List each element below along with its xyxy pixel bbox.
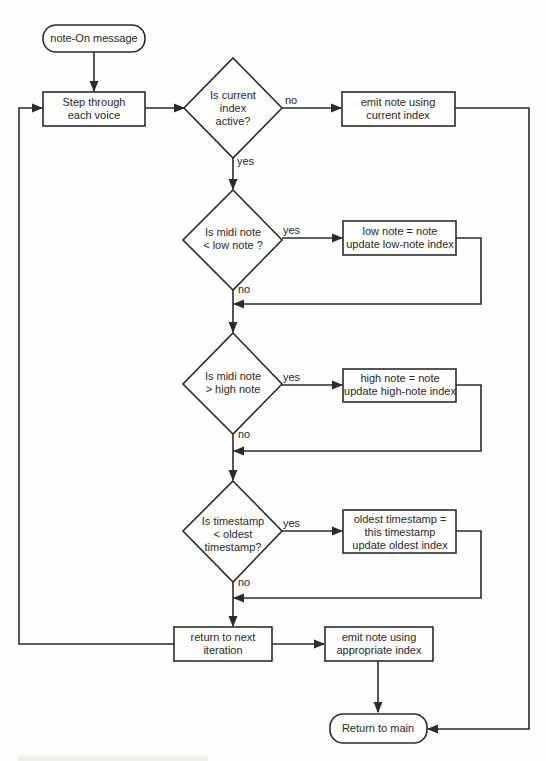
decision-high: Is midi note > high note [183,333,282,434]
node-set-high-text-2: update high-note index [344,385,456,397]
node-set-oldest-text-1: oldest timestamp = [354,513,447,525]
decision-active-text-3: active? [216,115,251,127]
node-start-text: note-On message [50,32,137,44]
node-emit-current: emit note using current index [342,92,455,126]
node-set-oldest-text-2: this timestamp [365,526,436,538]
label-oldest-no: no [238,576,250,588]
decision-oldest-text-2: < oldest [214,528,253,540]
decision-oldest: Is timestamp < oldest timestamp? [183,481,282,582]
node-end: Return to main [330,714,427,743]
node-step-text-2: each voice [68,109,121,121]
node-step-text-1: Step through [63,96,126,108]
node-emit-appropriate-text-1: emit note using [342,631,417,643]
node-emit-appropriate-text-2: appropriate index [336,644,422,656]
node-next-iteration: return to next iteration [174,627,272,661]
decision-high-text-1: Is midi note [205,370,261,382]
node-set-low-text-2: update low-note index [346,238,454,250]
node-set-high: high note = note update high-note index [343,369,456,402]
label-active-yes: yes [237,155,255,167]
decision-active: Is current index active? [184,58,282,158]
decision-low-text-2: < low note ? [203,239,263,251]
node-start: note-On message [43,25,145,52]
edge-emit-current-to-end [428,108,529,729]
edge-next-iter-loop [19,108,174,644]
decision-active-text-1: Is current [210,89,256,101]
node-next-iteration-text-1: return to next [191,631,256,643]
figure-caption-clipped [18,753,208,761]
label-high-no: no [238,428,250,440]
flowchart: note-On message Step through each voice … [0,0,546,761]
decision-low: Is midi note < low note ? [183,190,282,290]
node-step: Step through each voice [43,92,145,126]
label-high-yes: yes [283,371,301,383]
label-low-no: no [238,283,250,295]
node-end-text: Return to main [342,722,414,734]
node-set-oldest: oldest timestamp = this timestamp update… [343,510,456,553]
node-emit-current-text-1: emit note using [361,96,436,108]
node-emit-current-text-2: current index [366,109,430,121]
node-set-low: low note = note update low-note index [343,221,456,255]
node-set-low-text-1: low note = note [363,225,438,237]
decision-oldest-text-1: Is timestamp [202,515,264,527]
node-next-iteration-text-2: iteration [203,644,242,656]
label-low-yes: yes [283,224,301,236]
label-oldest-yes: yes [283,517,301,529]
decision-high-text-2: > high note [206,383,261,395]
node-set-high-text-1: high note = note [360,372,439,384]
node-set-oldest-text-3: update oldest index [352,539,448,551]
decision-low-text-1: Is midi note [205,226,261,238]
label-active-no: no [285,94,297,106]
decision-oldest-text-3: timestamp? [205,541,262,553]
decision-active-text-2: index [220,102,247,114]
node-emit-appropriate: emit note using appropriate index [325,627,433,661]
